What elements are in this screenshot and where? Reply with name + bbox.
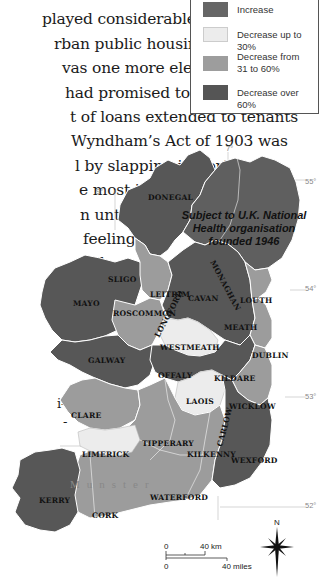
svg-text:9°: 9° <box>96 187 103 196</box>
label-kerry: KERRY <box>39 496 71 505</box>
legend-label-decrease-31-60-line1: Decrease from <box>237 51 299 63</box>
svg-text:0: 0 <box>164 562 169 571</box>
legend-label-decrease-over-60: Decrease over 60% <box>237 87 318 111</box>
scale-bar: 0 40 km 0 40 miles <box>164 542 252 571</box>
label-limerick: LIMERICK <box>82 450 129 459</box>
svg-text:Health organisation: Health organisation <box>193 222 296 234</box>
label-wicklow: WICKLOW <box>228 402 276 411</box>
label-cavan: CAVAN <box>188 294 219 303</box>
label-dublin: DUBLIN <box>252 351 289 360</box>
county-kerry <box>12 448 80 532</box>
label-tipperary: TIPPERARY <box>142 439 194 448</box>
compass-rose-icon: N <box>260 518 294 577</box>
svg-text:founded 1946: founded 1946 <box>209 235 281 247</box>
label-galway: GALWAY <box>88 356 126 365</box>
legend-swatch-increase <box>203 2 228 17</box>
map-legend: Increase Decrease up to 30% Decrease fro… <box>190 0 319 114</box>
svg-text:52°: 52° <box>305 501 316 510</box>
label-louth: LOUTH <box>240 296 272 305</box>
label-sligo: SLIGO <box>108 275 137 284</box>
svg-text:54°: 54° <box>305 284 316 293</box>
svg-text:40 km: 40 km <box>200 542 222 551</box>
svg-text:40 miles: 40 miles <box>222 562 252 571</box>
legend-label-decrease-30: Decrease up to 30% <box>237 29 318 53</box>
svg-text:0: 0 <box>164 542 169 551</box>
label-waterford: WATERFORD <box>149 493 208 502</box>
label-laois: LAOIS <box>186 397 214 406</box>
label-offaly: OFFALY <box>158 371 193 380</box>
label-mayo: MAYO <box>73 299 100 308</box>
label-cork: CORK <box>92 511 119 520</box>
legend-label-increase: Increase <box>237 4 273 16</box>
label-donegal: DONEGAL <box>148 193 194 202</box>
province-label: Munster <box>70 478 156 490</box>
svg-text:55°: 55° <box>305 177 316 186</box>
svg-text:53°: 53° <box>305 392 316 401</box>
svg-text:Subject to U.K. National: Subject to U.K. National <box>182 209 308 221</box>
label-kildare: KILDARE <box>214 374 255 383</box>
legend-swatch-decrease-30 <box>203 27 228 42</box>
legend-label-decrease-31-60-line2: 31 to 60% <box>237 63 280 75</box>
label-wexford: WEXFORD <box>230 456 278 465</box>
legend-swatch-decrease-over-60 <box>203 85 228 100</box>
svg-text:N: N <box>274 518 280 527</box>
legend-swatch-decrease-31-60 <box>203 56 228 71</box>
label-meath: MEATH <box>224 323 258 332</box>
label-kilkenny: KILKENNY <box>187 450 236 459</box>
svg-text:7°: 7° <box>226 144 233 153</box>
label-clare: CLARE <box>71 411 101 420</box>
label-westmeath: WESTMEATH <box>159 343 220 352</box>
